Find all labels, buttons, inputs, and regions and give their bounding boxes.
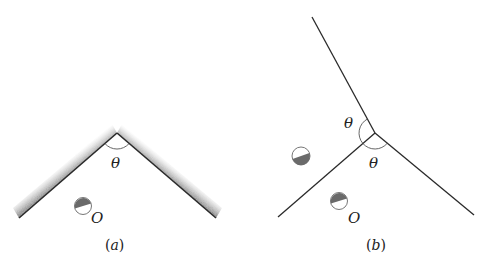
panel-a: θ O (a) — [13, 124, 222, 253]
angle-label-a: θ — [111, 154, 120, 172]
ball-object-b — [331, 193, 348, 210]
angle-arc-a — [105, 144, 129, 150]
mirror-diagram: θ O (a) θ θ O ( — [0, 0, 485, 271]
angle-label-b-1: θ — [344, 114, 353, 132]
lower-right-ray — [375, 133, 474, 215]
point-label-b: O — [348, 209, 360, 227]
panel-b: θ θ O (b) — [278, 17, 474, 253]
point-label-a: O — [91, 209, 103, 227]
angle-arc-b-lower — [363, 143, 387, 149]
ball-image-b — [292, 147, 310, 165]
caption-b: (b) — [366, 237, 386, 253]
right-mirror — [117, 133, 216, 218]
left-mirror — [19, 133, 117, 218]
lower-left-ray — [278, 133, 375, 217]
angle-label-b-2: θ — [369, 154, 378, 172]
left-mirror-shading — [13, 124, 117, 218]
right-mirror-shading — [117, 124, 222, 218]
caption-a: (a) — [105, 237, 124, 253]
ball-object-a — [75, 198, 92, 215]
